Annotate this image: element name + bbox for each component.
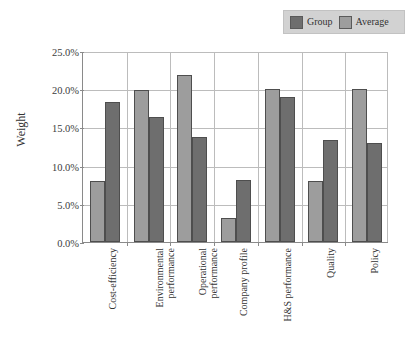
x-axis-label-line: Environmental — [154, 248, 165, 307]
x-tick-mark — [345, 242, 346, 246]
x-axis-labels: Cost-efficiencyEnvironmentalperformanceO… — [82, 248, 388, 348]
x-tick-mark — [170, 242, 171, 246]
legend-swatch-average — [339, 16, 352, 29]
y-tick-mark — [80, 243, 84, 244]
bar-average — [90, 181, 105, 242]
bar-group-series — [192, 137, 207, 242]
x-axis-label-line: H&S performance — [282, 248, 293, 322]
x-axis-label-line: performance — [208, 248, 219, 348]
y-tick-label: 25.0% — [52, 47, 79, 58]
chart-legend: Group Average — [283, 10, 405, 34]
bar-group — [170, 52, 214, 242]
bar-group-series — [236, 180, 251, 242]
x-axis-label-line: Policy — [369, 248, 380, 274]
legend-label-group: Group — [307, 17, 333, 27]
legend-label-average: Average — [356, 17, 389, 27]
bar-group-series — [280, 97, 295, 242]
legend-swatch-group — [290, 16, 303, 29]
x-tick-mark — [127, 242, 128, 246]
y-tick-label: 10.0% — [52, 161, 79, 172]
x-tick-mark — [258, 242, 259, 246]
bar-average — [134, 90, 149, 242]
y-tick-label: 20.0% — [52, 85, 79, 96]
chart-figure: Group Average Weight 25.0%20.0%15.0%10.0… — [0, 0, 412, 352]
bar-average — [308, 181, 323, 242]
x-axis-label: Operationalperformance — [197, 248, 219, 348]
bar-group-series — [367, 143, 382, 242]
bar-group-series — [105, 102, 120, 242]
x-axis-label-line: performance — [165, 248, 176, 348]
bar-group — [258, 52, 302, 242]
x-tick-mark — [214, 242, 215, 246]
x-axis-label: Quality — [325, 248, 336, 348]
plot-area: 25.0%20.0%15.0%10.0%5.0%0.0% — [82, 52, 388, 243]
bar-group — [345, 52, 389, 242]
bar-average — [221, 218, 236, 242]
y-tick-label: 0.0% — [57, 238, 79, 249]
x-axis-label: Cost-efficiency — [107, 248, 118, 348]
bar-average — [265, 89, 280, 242]
bar-group — [127, 52, 171, 242]
x-axis-label: Company profile — [238, 248, 249, 348]
bar-average — [177, 75, 192, 242]
x-axis-label-line: Company profile — [238, 248, 249, 316]
bar-group — [83, 52, 127, 242]
x-axis-label-line: Cost-efficiency — [107, 248, 118, 309]
x-tick-mark — [302, 242, 303, 246]
x-axis-label-line: Operational — [197, 248, 208, 295]
y-tick-label: 5.0% — [57, 199, 79, 210]
bar-average — [352, 89, 367, 242]
bar-group — [302, 52, 346, 242]
legend-entry-average: Average — [339, 16, 389, 29]
legend-entry-group: Group — [290, 16, 333, 29]
x-axis-label: H&S performance — [282, 248, 293, 348]
y-tick-label: 15.0% — [52, 123, 79, 134]
y-axis-title: Weight — [14, 100, 29, 160]
bar-group — [214, 52, 258, 242]
bar-group-series — [149, 117, 164, 242]
x-axis-label-line: Quality — [325, 248, 336, 278]
x-axis-label: Policy — [369, 248, 380, 348]
x-axis-label: Environmentalperformance — [154, 248, 176, 348]
bar-group-series — [323, 140, 338, 242]
